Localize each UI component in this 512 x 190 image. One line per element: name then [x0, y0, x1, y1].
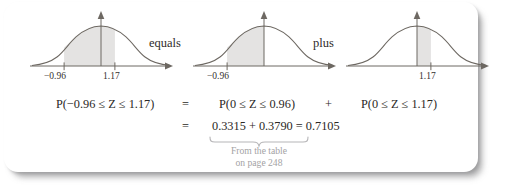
figure-card: −0.96 1.17 equals −0.96 plus 1.17 P(−0: [4, 2, 478, 172]
x-axis-arrow: [328, 63, 336, 70]
table-reference-caption: From the table on page 248: [209, 145, 309, 168]
x-axis-arrow: [165, 63, 173, 70]
equation-numeric-expression: 0.3315 + 0.3790 = 0.7105: [212, 119, 340, 134]
shaded-area: [64, 26, 115, 66]
caption-line-2: on page 248: [209, 157, 309, 169]
equation-equals-sign-row1: =: [182, 97, 189, 112]
equation-middle-probability: P(0 ≤ Z ≤ 0.96): [219, 97, 295, 112]
curve-right-svg: [342, 10, 492, 76]
caption-line-1: From the table: [209, 145, 309, 157]
equation-left-probability: P(−0.96 ≤ Z ≤ 1.17): [56, 97, 154, 112]
shaded-area: [417, 26, 431, 66]
tick-label-neg096-curve2: −0.96: [207, 71, 229, 81]
tick-label-117-curve1: 1.17: [103, 71, 120, 81]
tick-label-117-curve3: 1.17: [419, 71, 436, 81]
equation-right-probability: P(0 ≤ Z ≤ 1.17): [361, 97, 437, 112]
y-axis-arrow: [414, 11, 421, 19]
y-axis-arrow: [261, 11, 268, 19]
x-axis-arrow: [481, 63, 489, 70]
tick-label-neg096-curve1: −0.96: [44, 71, 66, 81]
equation-plus-sign: +: [325, 97, 332, 112]
connector-equals-label: equals: [149, 36, 181, 51]
equation-equals-sign-row2: =: [182, 119, 189, 134]
chart-curve-right: [342, 10, 492, 80]
y-axis-arrow: [98, 11, 105, 19]
connector-plus-label: plus: [313, 36, 334, 51]
